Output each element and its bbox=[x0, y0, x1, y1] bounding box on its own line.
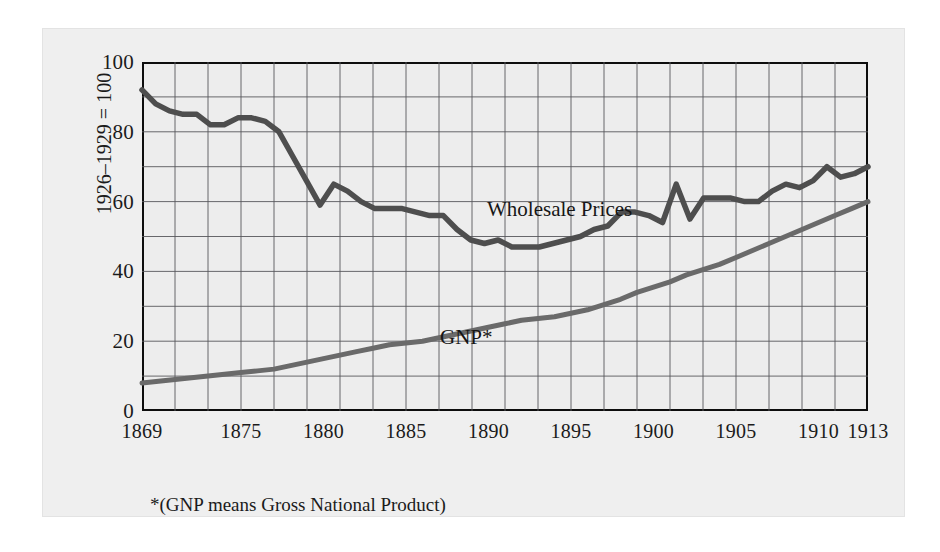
figure-panel: 1926–1929 = 100 0 20 40 60 80 100 Wholes… bbox=[42, 28, 905, 517]
x-tick-1885: 1885 bbox=[386, 420, 427, 443]
x-axis-tick-labels: 1869187518801885189018951900190519101913 bbox=[142, 420, 868, 450]
data-series-layer bbox=[142, 62, 868, 411]
x-tick-1869: 1869 bbox=[122, 420, 163, 443]
x-tick-1900: 1900 bbox=[633, 420, 674, 443]
x-tick-1890: 1890 bbox=[468, 420, 509, 443]
x-tick-1910: 1910 bbox=[798, 420, 839, 443]
x-tick-1880: 1880 bbox=[303, 420, 344, 443]
y-tick-100: 100 bbox=[82, 50, 134, 75]
x-tick-1905: 1905 bbox=[716, 420, 757, 443]
series-label-gnp: GNP* bbox=[440, 325, 493, 350]
x-tick-1895: 1895 bbox=[551, 420, 592, 443]
y-tick-60: 60 bbox=[82, 189, 134, 214]
series-label-wholesale-prices: Wholesale Prices bbox=[487, 197, 632, 222]
y-tick-40: 40 bbox=[82, 259, 134, 284]
y-tick-20: 20 bbox=[82, 329, 134, 354]
x-tick-1913: 1913 bbox=[848, 420, 889, 443]
y-axis-tick-labels: 0 20 40 60 80 100 bbox=[72, 62, 134, 411]
x-tick-1875: 1875 bbox=[221, 420, 262, 443]
chart-footnote: *(GNP means Gross National Product) bbox=[150, 494, 446, 516]
plot-area bbox=[142, 62, 868, 411]
y-tick-80: 80 bbox=[82, 119, 134, 144]
